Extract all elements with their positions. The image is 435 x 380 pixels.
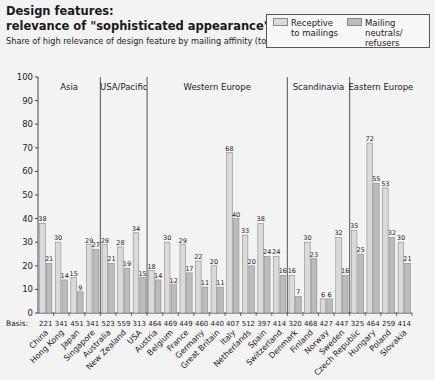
bar-neutral — [296, 296, 302, 313]
bar-value-label: 7 — [296, 288, 300, 296]
basis-value: 464 — [148, 320, 162, 328]
bar-value-label: 34 — [132, 225, 140, 233]
bar-value-label: 11 — [216, 279, 224, 287]
region-label: Eastern Europe — [348, 82, 413, 92]
basis-label: Basis: — [6, 319, 28, 328]
bar-value-label: 14 — [154, 272, 162, 280]
bar-neutral — [327, 299, 333, 313]
bar-receptive — [211, 266, 217, 313]
region-label: Western Europe — [183, 82, 250, 92]
bar-neutral — [187, 273, 193, 313]
region-label: USA/Pacific — [100, 82, 148, 92]
basis-value: 512 — [242, 320, 255, 328]
basis-value: 259 — [382, 320, 395, 328]
bar-receptive — [180, 245, 186, 313]
y-tick-label: 90 — [22, 96, 33, 106]
bar-neutral — [93, 249, 99, 313]
bar-value-label: 72 — [366, 135, 374, 143]
bar-receptive — [71, 278, 77, 313]
bar-neutral — [233, 219, 239, 313]
y-tick-label: 0 — [28, 308, 33, 318]
region-label: Asia — [60, 82, 78, 92]
bar-value-label: 30 — [54, 234, 62, 242]
basis-value: 341 — [55, 320, 68, 328]
basis-value: 320 — [288, 320, 301, 328]
bar-value-label: 38 — [257, 215, 265, 223]
bar-receptive — [320, 299, 326, 313]
bar-value-label: 22 — [194, 253, 202, 261]
bar-receptive — [367, 143, 373, 313]
bar-neutral — [342, 275, 348, 313]
basis-value: 313 — [133, 320, 146, 328]
bar-receptive — [383, 188, 389, 313]
bar-receptive — [273, 256, 279, 313]
basis-value: 464 — [366, 320, 380, 328]
bar-value-label: 30 — [163, 234, 171, 242]
bar-value-label: 23 — [310, 251, 318, 259]
y-tick-label: 10 — [22, 284, 33, 294]
bar-neutral — [109, 263, 115, 313]
y-tick-label: 70 — [22, 143, 33, 153]
basis-value: 407 — [226, 320, 239, 328]
bar-value-label: 24 — [263, 248, 271, 256]
bar-neutral — [358, 254, 364, 313]
y-tick-label: 50 — [22, 190, 33, 200]
bar-value-label: 20 — [210, 258, 218, 266]
bar-value-label: 53 — [381, 180, 389, 188]
basis-value: 440 — [211, 320, 224, 328]
bar-receptive — [118, 247, 124, 313]
bar-receptive — [289, 275, 295, 313]
bar-value-label: 27 — [92, 241, 100, 249]
bar-neutral — [218, 287, 224, 313]
bar-receptive — [86, 245, 92, 313]
y-tick-label: 100 — [17, 72, 33, 82]
bar-value-label: 14 — [61, 272, 69, 280]
bar-neutral — [171, 285, 177, 313]
y-tick-label: 80 — [22, 119, 33, 129]
basis-value: 427 — [320, 320, 333, 328]
bar-neutral — [264, 256, 270, 313]
bar-receptive — [227, 153, 233, 313]
basis-value: 469 — [164, 320, 177, 328]
bar-receptive — [351, 230, 357, 313]
bar-value-label: 12 — [170, 277, 178, 285]
bar-neutral — [249, 266, 255, 313]
bar-value-label: 18 — [147, 263, 155, 271]
y-tick-label: 20 — [22, 261, 33, 271]
bar-value-label: 16 — [341, 267, 349, 275]
bar-chart: 0102030405060708090100Basis:3821221China… — [0, 0, 435, 380]
bar-value-label: 21 — [45, 255, 53, 263]
bar-value-label: 30 — [397, 234, 405, 242]
bar-value-label: 19 — [123, 260, 131, 268]
bar-receptive — [258, 223, 264, 313]
bar-value-label: 24 — [272, 248, 280, 256]
basis-value: 559 — [117, 320, 130, 328]
y-tick-label: 30 — [22, 237, 33, 247]
bar-neutral — [155, 280, 161, 313]
basis-value: 397 — [257, 320, 270, 328]
bar-neutral — [202, 287, 208, 313]
bar-value-label: 68 — [225, 145, 233, 153]
bar-value-label: 33 — [241, 227, 249, 235]
basis-value: 523 — [101, 320, 114, 328]
bar-receptive — [398, 242, 404, 313]
basis-value: 325 — [351, 320, 364, 328]
bar-neutral — [62, 280, 68, 313]
bar-value-label: 32 — [334, 229, 342, 237]
bar-value-label: 28 — [116, 239, 124, 247]
bar-value-label: 11 — [201, 279, 209, 287]
bar-value-label: 20 — [248, 258, 256, 266]
basis-value: 414 — [398, 320, 412, 328]
bar-neutral — [77, 292, 83, 313]
basis-value: 414 — [273, 320, 287, 328]
bar-neutral — [311, 259, 317, 313]
bar-value-label: 15 — [138, 270, 146, 278]
y-tick-label: 60 — [22, 166, 33, 176]
basis-value: 449 — [179, 320, 192, 328]
bar-value-label: 29 — [101, 237, 109, 245]
bar-value-label: 55 — [372, 175, 380, 183]
bar-value-label: 16 — [288, 267, 296, 275]
bar-receptive — [242, 235, 248, 313]
bar-neutral — [405, 263, 411, 313]
y-tick-label: 40 — [22, 214, 33, 224]
